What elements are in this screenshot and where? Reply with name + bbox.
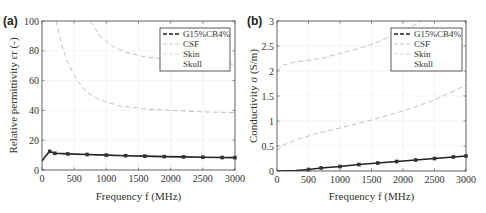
data-marker <box>124 154 128 158</box>
data-marker <box>201 155 205 159</box>
legend-entry-skull: Skull <box>414 59 434 69</box>
y-tick-label: 2 <box>269 66 274 77</box>
y-tick-label: 20 <box>29 135 39 146</box>
data-marker <box>220 156 224 160</box>
legend-entry-skin: Skin <box>414 49 431 59</box>
x-tick-label: 1500 <box>362 174 382 185</box>
y-axis-label-b: Conductivity σ (S/m) <box>247 49 260 143</box>
data-marker <box>85 153 89 157</box>
x-tick-label: 0 <box>40 173 45 184</box>
figure: (a) 050010001500200025003000020406080100… <box>0 0 486 213</box>
legend-a: G15%CB4% CSF Skin Skull <box>160 28 231 71</box>
data-marker <box>48 150 52 154</box>
y-tick-label: 80 <box>29 45 39 56</box>
data-marker <box>143 154 147 158</box>
chart-b: (b) 05001000150020002500300000.511.522.5… <box>247 14 476 203</box>
y-tick-label: 0 <box>34 165 39 176</box>
y-tick-label: 0 <box>269 166 274 177</box>
x-tick-label: 1000 <box>96 173 116 184</box>
x-tick-label: 0 <box>275 174 280 185</box>
data-marker <box>357 163 361 167</box>
y-tick-label: 1 <box>269 116 274 127</box>
y-tick-label: 3 <box>269 16 274 27</box>
x-tick-label: 2500 <box>425 174 445 185</box>
legend-entry-g15: G15%CB4% <box>183 29 231 39</box>
data-marker <box>414 158 418 162</box>
data-marker <box>452 155 456 159</box>
data-marker <box>319 166 323 170</box>
legend-entry-skin: Skin <box>183 49 200 59</box>
y-tick-label: 2.5 <box>262 41 275 52</box>
panel-label-a: (a) <box>3 14 18 28</box>
x-tick-label: 2000 <box>393 174 413 185</box>
data-marker <box>182 155 186 159</box>
data-marker <box>162 155 166 159</box>
legend-entry-csf: CSF <box>414 39 430 49</box>
y-tick-label: 0.5 <box>262 141 275 152</box>
legend-entry-skull: Skull <box>183 59 203 69</box>
y-tick-label: 60 <box>29 75 39 86</box>
panel-label-b: (b) <box>247 14 262 28</box>
x-axis-label-b: Frequency f (MHz) <box>329 190 415 203</box>
data-marker <box>433 157 437 161</box>
x-tick-label: 1000 <box>330 174 350 185</box>
y-tick-label: 100 <box>24 16 39 27</box>
legend-b: G15%CB4% CSF Skin Skull <box>391 28 462 71</box>
data-marker <box>53 152 57 156</box>
x-tick-label: 2500 <box>193 173 213 184</box>
x-tick-label: 2000 <box>161 173 181 184</box>
legend-entry-csf: CSF <box>183 39 199 49</box>
chart-a: (a) 050010001500200025003000020406080100… <box>3 14 245 203</box>
x-tick-label: 500 <box>301 174 316 185</box>
x-tick-label: 3000 <box>225 173 245 184</box>
y-tick-label: 40 <box>29 105 39 116</box>
y-axis-label-a: Relative permittivity εr (-) <box>7 37 20 153</box>
y-tick-label: 1.5 <box>262 91 275 102</box>
data-marker <box>105 153 109 157</box>
data-marker <box>66 152 70 156</box>
legend-entry-g15: G15%CB4% <box>414 29 462 39</box>
x-tick-label: 3000 <box>456 174 476 185</box>
data-marker <box>338 165 342 169</box>
x-tick-label: 500 <box>67 173 82 184</box>
data-marker <box>395 160 399 164</box>
x-axis-label-a: Frequency f (MHz) <box>96 190 182 203</box>
x-tick-label: 1500 <box>129 173 149 184</box>
data-marker <box>376 161 380 165</box>
